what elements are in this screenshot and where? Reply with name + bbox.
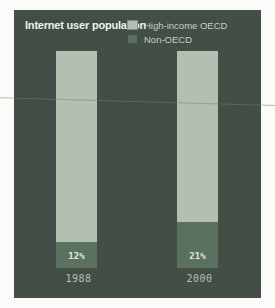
bar-1988-percent-label: 12% <box>56 251 97 261</box>
legend-swatch-high-income-oecd <box>127 20 138 30</box>
bar-2000-non-oecd-segment: 21% <box>177 222 218 268</box>
x-axis-label-2000: 2000 <box>179 273 220 284</box>
legend-label-non-oecd: Non-OECD <box>144 34 192 45</box>
legend: High-income OECD Non-OECD <box>127 19 227 47</box>
legend-item-high-income-oecd: High-income OECD <box>127 19 227 31</box>
legend-item-non-oecd: Non-OECD <box>127 33 227 45</box>
bar-2000-percent-label: 21% <box>177 251 218 261</box>
bar-1988: 12% <box>56 51 97 268</box>
legend-swatch-non-oecd <box>127 34 138 44</box>
chart-panel: Internet user population High-income OEC… <box>14 10 261 298</box>
x-axis-label-1988: 1988 <box>58 273 99 284</box>
bar-1988-non-oecd-segment: 12% <box>56 242 97 268</box>
bar-2000-high-income-oecd-segment <box>177 51 218 222</box>
figure: Internet user population High-income OEC… <box>0 0 275 308</box>
bar-2000: 21% <box>177 51 218 268</box>
bar-1988-high-income-oecd-segment <box>56 51 97 242</box>
legend-label-high-income-oecd: High-income OECD <box>144 20 227 31</box>
